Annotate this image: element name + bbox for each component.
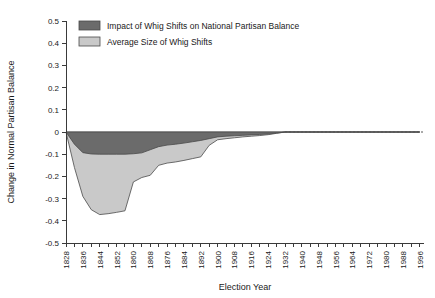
x-tick-label: 1996 — [416, 250, 425, 268]
x-axis-ticks — [66, 243, 420, 247]
y-tick-label: -0.2 — [45, 172, 59, 181]
y-tick-label: -0.1 — [45, 150, 59, 159]
y-tick-label: 0.3 — [48, 61, 60, 70]
legend-label: Average Size of Whig Shifts — [107, 37, 212, 47]
legend-label: Impact of Whig Shifts on National Partis… — [107, 21, 300, 31]
x-tick-label: 1988 — [399, 250, 408, 268]
legend-swatch — [79, 21, 100, 30]
legend-swatch — [79, 37, 100, 46]
series-area — [66, 132, 420, 154]
y-axis-title: Change in Normal Partisan Balance — [6, 60, 16, 203]
x-tick-label: 1924 — [264, 250, 273, 268]
x-tick-label: 1908 — [230, 250, 239, 268]
x-tick-label: 1860 — [129, 250, 138, 268]
x-tick-label: 1836 — [79, 250, 88, 268]
x-tick-label: 1852 — [113, 250, 122, 268]
x-tick-label: 1956 — [332, 250, 341, 268]
y-tick-label: -0.4 — [45, 217, 59, 226]
x-axis-tick-labels: 1828183618441852186018681876188418921900… — [62, 250, 425, 268]
area-chart: 0.50.40.30.20.10-0.1-0.2-0.3-0.4-0.5 182… — [0, 0, 435, 298]
x-tick-label: 1972 — [365, 250, 374, 268]
y-axis-ticks — [62, 21, 66, 243]
y-tick-label: 0.5 — [48, 17, 60, 26]
y-tick-label: 0.2 — [48, 84, 60, 93]
chart-container: 0.50.40.30.20.10-0.1-0.2-0.3-0.4-0.5 182… — [0, 0, 435, 298]
x-tick-label: 1844 — [96, 250, 105, 268]
x-tick-label: 1916 — [247, 250, 256, 268]
x-tick-label: 1900 — [214, 250, 223, 268]
x-tick-label: 1940 — [298, 250, 307, 268]
x-tick-label: 1964 — [348, 250, 357, 268]
x-tick-label: 1868 — [146, 250, 155, 268]
y-tick-label: 0.4 — [48, 39, 60, 48]
x-tick-label: 1884 — [180, 250, 189, 268]
x-tick-label: 1876 — [163, 250, 172, 268]
plot-area: 0.50.40.30.20.10-0.1-0.2-0.3-0.4-0.5 182… — [45, 17, 425, 269]
y-tick-label: 0.1 — [48, 106, 60, 115]
x-tick-label: 1980 — [382, 250, 391, 268]
x-tick-label: 1948 — [315, 250, 324, 268]
y-tick-label: -0.3 — [45, 195, 59, 204]
series-layer — [66, 132, 420, 215]
y-axis-tick-labels: 0.50.40.30.20.10-0.1-0.2-0.3-0.4-0.5 — [45, 17, 59, 248]
y-tick-label: -0.5 — [45, 239, 59, 248]
x-tick-label: 1828 — [62, 250, 71, 268]
x-tick-label: 1892 — [197, 250, 206, 268]
x-tick-label: 1932 — [281, 250, 290, 268]
x-axis-title: Election Year — [219, 282, 272, 292]
y-tick-label: 0 — [55, 128, 60, 137]
chart-legend: Impact of Whig Shifts on National Partis… — [79, 21, 300, 47]
